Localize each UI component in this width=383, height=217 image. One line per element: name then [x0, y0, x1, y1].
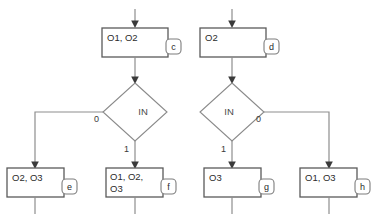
badge-c-label: c [171, 42, 176, 52]
node-h[interactable]: O1, O3 [300, 168, 357, 197]
edge-d-to-decision-right [228, 57, 236, 84]
badge-e[interactable]: e [62, 179, 77, 194]
edge-label-right-zero: 0 [256, 114, 261, 124]
edge-decision-left-zero-to-e [31, 112, 103, 169]
edge-decision-left-one-to-f [131, 141, 139, 169]
decision-left-label: IN [138, 106, 148, 117]
node-h-label: O1, O3 [305, 172, 336, 183]
node-f-label-line1: O1, O2, [110, 171, 143, 182]
flowchart-canvas: O1, O2 c O2 d IN [0, 0, 383, 217]
node-g-label: O3 [209, 172, 222, 183]
decision-right[interactable]: IN [200, 83, 264, 141]
badge-h-label: h [360, 182, 365, 192]
edge-decision-right-one-to-g [228, 141, 236, 169]
badge-f[interactable]: f [161, 179, 176, 194]
edge-c-to-decision-left [131, 57, 139, 84]
edge-label-left-zero: 0 [94, 114, 99, 124]
edge-label-right-one: 1 [221, 144, 226, 154]
badge-c[interactable]: c [166, 39, 181, 54]
decision-left-diamond[interactable] [103, 83, 167, 141]
badge-g[interactable]: g [259, 179, 274, 194]
badge-e-label: e [67, 182, 72, 192]
badge-h[interactable]: h [355, 179, 370, 194]
node-c-label: O1, O2 [107, 32, 138, 43]
badge-d[interactable]: d [264, 39, 279, 54]
decision-left[interactable]: IN [103, 83, 167, 141]
edge-label-left-one: 1 [124, 144, 129, 154]
node-g[interactable]: O3 [204, 168, 261, 197]
edge-decision-right-zero-to-h [264, 112, 333, 169]
badge-g-label: g [264, 182, 269, 192]
node-e-label: O2, O3 [12, 172, 43, 183]
badge-d-label: d [269, 42, 274, 52]
node-f[interactable]: O1, O2, O3 [106, 168, 163, 197]
edge-entry-to-c [131, 9, 139, 28]
edge-entry-to-d [228, 9, 236, 28]
node-e[interactable]: O2, O3 [7, 168, 64, 197]
node-d-label: O2 [205, 32, 218, 43]
node-d[interactable]: O2 [200, 28, 266, 57]
flowchart-diagram: ·· ···· ·· O1, O2 c O2 d [0, 0, 383, 217]
decision-right-label: IN [224, 106, 234, 117]
node-c[interactable]: O1, O2 [102, 28, 168, 57]
node-f-label-line2: O3 [110, 183, 123, 194]
